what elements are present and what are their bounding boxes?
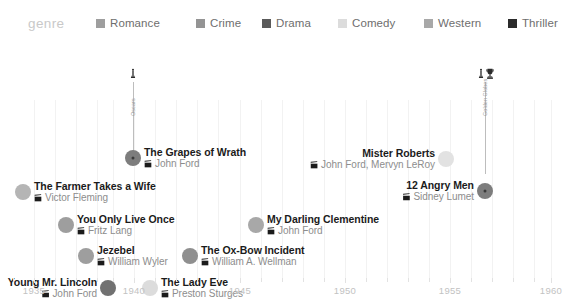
legend-swatch-icon [338,19,347,28]
film-director: Fritz Lang [88,225,132,237]
film-label[interactable]: The Ox-Bow IncidentWilliam A. Wellman [201,244,304,268]
film-director: John Ford [278,225,323,237]
clapperboard-icon [267,227,275,235]
x-axis-minor-tick [261,278,262,282]
film-director-row: John Ford [267,225,379,237]
film-label[interactable]: 12 Angry MenSidney Lumet [402,179,474,203]
x-axis-minor-tick [197,278,198,282]
clapperboard-icon [402,193,410,201]
x-axis-minor-tick [155,278,156,282]
twelve-angry-men-award-stem-label: Golden Globes [482,79,488,116]
film-label[interactable]: My Darling ClementineJohn Ford [267,213,379,237]
gridline [513,100,514,278]
film-director-row: Victor Fleming [34,192,156,204]
film-label[interactable]: The Farmer Takes a WifeVictor Fleming [34,180,156,204]
x-axis-minor-tick [324,278,325,282]
legend-item-label: Crime [210,17,241,29]
film-director-row: John Ford [144,158,246,170]
x-axis-tick-label: 1955 [439,285,461,296]
x-axis-minor-tick [492,278,493,282]
grapes-of-wrath-award-stem-icons[interactable] [130,68,136,80]
film-director-row: William Wyler [97,256,168,268]
film-marker[interactable] [438,151,454,167]
legend-item-thriller[interactable]: Thriller [508,17,558,29]
legend-swatch-icon [196,19,205,28]
film-title: The Farmer Takes a Wife [34,180,156,192]
film-director-row: John Ford, Mervyn LeRoy [310,159,435,171]
gridline [387,100,388,278]
gridline [366,100,367,278]
film-marker-center-dot-icon [484,190,487,193]
x-axis-minor-tick [471,278,472,282]
x-axis-minor-tick [113,278,114,282]
x-axis-minor-tick [176,278,177,282]
film-marker[interactable] [78,248,94,264]
film-title: My Darling Clementine [267,213,379,225]
legend-item-romance[interactable]: Romance [96,17,160,29]
film-label[interactable]: Mister RobertsJohn Ford, Mervyn LeRoy [310,147,435,171]
film-director: John Ford [155,158,200,170]
x-axis-minor-tick [218,278,219,282]
x-axis-minor-tick [408,278,409,282]
genre-legend: genre RomanceCrimeDramaComedyWesternThri… [0,12,570,38]
film-label[interactable]: The Grapes of WrathJohn Ford [144,146,246,170]
film-title: The Ox-Bow Incident [201,244,304,256]
film-director: Victor Fleming [45,192,108,204]
gridline [551,100,552,278]
legend-swatch-icon [424,19,433,28]
legend-item-crime[interactable]: Crime [196,17,241,29]
x-axis-minor-tick [97,278,98,282]
legend-item-label: Comedy [352,17,395,29]
grapes-of-wrath-award-stem [133,82,134,156]
x-axis-tick-label: 1945 [229,285,251,296]
grapes-of-wrath-award-stem-label: Oscars [130,98,136,116]
legend-item-drama[interactable]: Drama [262,17,311,29]
film-title: 12 Angry Men [402,179,474,191]
film-marker[interactable] [182,248,198,264]
x-axis-tick-label: 1960 [540,285,562,296]
x-axis-minor-tick [513,278,514,282]
gridline [534,100,535,278]
film-label[interactable]: JezebelWilliam Wyler [97,244,168,268]
gridline [197,100,198,278]
legend-title: genre [28,16,65,31]
film-title: The Grapes of Wrath [144,146,246,158]
clapperboard-icon [97,258,105,266]
legend-swatch-icon [508,19,517,28]
film-marker[interactable] [58,217,74,233]
clapperboard-icon [77,227,85,235]
x-axis-minor-tick [534,278,535,282]
film-director-row: William A. Wellman [201,256,304,268]
clapperboard-icon [201,258,209,266]
plot-area: OscarsGolden Globes The Grapes of WrathJ… [0,38,570,278]
x-axis-tick [551,278,552,283]
clapperboard-icon [310,161,318,169]
timeline-chart-root: genre RomanceCrimeDramaComedyWesternThri… [0,0,570,304]
legend-item-western[interactable]: Western [424,17,481,29]
legend-swatch-icon [96,19,105,28]
film-director-row: Fritz Lang [77,225,175,237]
film-title: Jezebel [97,244,168,256]
legend-item-label: Drama [276,17,311,29]
legend-item-comedy[interactable]: Comedy [338,17,395,29]
x-axis-tick-label: 1935 [23,285,45,296]
film-title: Mister Roberts [310,147,435,159]
film-marker-center-dot-icon [132,157,135,160]
legend-item-label: Western [438,17,481,29]
film-marker[interactable] [15,184,31,200]
x-axis-minor-tick [282,278,283,282]
x-axis-minor-tick [387,278,388,282]
x-axis-tick [345,278,346,283]
film-director: William Wyler [108,256,168,268]
film-title: You Only Live Once [77,213,175,225]
x-axis-tick-label: 1950 [334,285,356,296]
film-marker[interactable] [248,217,264,233]
film-director: Sidney Lumet [413,191,474,203]
clapperboard-icon [144,160,152,168]
legend-swatch-icon [262,19,271,28]
film-label[interactable]: You Only Live OnceFritz Lang [77,213,175,237]
x-axis-minor-tick [429,278,430,282]
x-axis-tick [450,278,451,283]
oscar-statuette-icon [130,68,136,80]
x-axis-tick [134,278,135,283]
